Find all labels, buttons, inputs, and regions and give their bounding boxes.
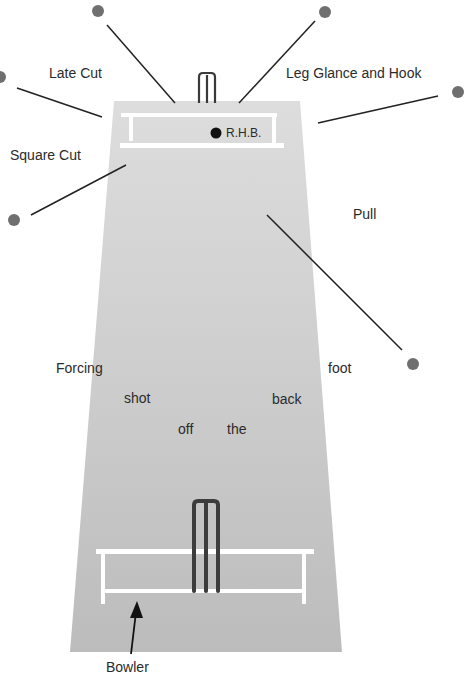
label-foot: foot xyxy=(328,360,351,376)
label-square-cut: Square Cut xyxy=(10,147,81,163)
fielder-dot-icon xyxy=(8,214,20,226)
late-cut-line xyxy=(107,25,175,103)
fielder-dot-icon xyxy=(0,71,6,83)
fielder-dot-icon xyxy=(319,6,331,18)
fielder-dot-icon xyxy=(407,358,419,370)
fielder-dot-icon xyxy=(92,5,104,17)
label-forcing: Forcing xyxy=(56,360,103,376)
label-shot: shot xyxy=(124,390,150,406)
hook-line xyxy=(318,96,438,123)
label-late-cut: Late Cut xyxy=(49,65,102,81)
label-back: back xyxy=(272,391,302,407)
fielder-dot-icon xyxy=(452,86,464,98)
batsman-stumps-icon xyxy=(199,73,215,103)
late-cut-fine-line xyxy=(17,88,102,117)
cricket-shots-diagram: Late Cut Leg Glance and Hook R.H.B. Squa… xyxy=(0,0,465,685)
leg-glance-line xyxy=(239,21,315,103)
label-the: the xyxy=(227,421,246,437)
label-pull: Pull xyxy=(353,206,376,222)
label-leg-glance-hook: Leg Glance and Hook xyxy=(286,65,421,81)
label-off: off xyxy=(178,421,193,437)
label-bowler: Bowler xyxy=(106,659,149,675)
batsman-position-icon xyxy=(211,128,222,139)
label-batsman: R.H.B. xyxy=(226,126,261,140)
